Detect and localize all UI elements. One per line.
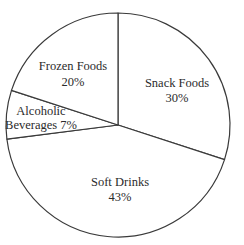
label-alcoholic-beverages-name: Alcoholic [16, 104, 66, 118]
label-soft-drinks-name: Soft Drinks [91, 175, 149, 189]
label-frozen-foods-value: 20% [62, 75, 85, 89]
label-soft-drinks-value: 43% [109, 190, 132, 204]
label-frozen-foods-name: Frozen Foods [39, 59, 108, 73]
label-alcoholic-beverages-value: Beverages 7% [5, 118, 77, 132]
label-snack-foods-value: 30% [166, 91, 189, 105]
pie-chart: Snack Foods 30% Soft Drinks 43% Alcoholi… [0, 0, 244, 245]
label-snack-foods-name: Snack Foods [145, 76, 209, 90]
